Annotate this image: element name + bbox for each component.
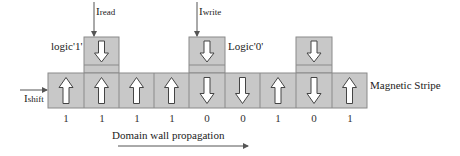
shift-current-label: Ishift (24, 92, 44, 104)
write-head-box (189, 37, 225, 73)
logic-0-label: Logic'0' (228, 40, 263, 52)
bit-value: 0 (189, 112, 225, 124)
bit-value: 0 (225, 112, 261, 124)
bit-value: 1 (332, 112, 368, 124)
write-current-label: Iwrite (199, 5, 221, 17)
racetrack-memory-diagram: Iread Iwrite Ishift logic'1' Logic'0' Ma… (0, 0, 460, 156)
bit-value: 1 (260, 112, 296, 124)
bit-value: 0 (296, 112, 332, 124)
bit-value: 1 (119, 112, 155, 124)
magnetic-stripe-label: Magnetic Stripe (370, 79, 441, 91)
bit-value: 1 (48, 112, 84, 124)
magnetic-stripe (48, 73, 367, 108)
logic-1-label: logic'1' (51, 40, 82, 52)
bit-value: 1 (84, 112, 120, 124)
reference-box (296, 37, 332, 73)
read-current-label: Iread (96, 5, 115, 17)
propagation-label: Domain wall propagation (112, 129, 224, 141)
bit-value: 1 (154, 112, 190, 124)
read-head-box (84, 37, 119, 73)
